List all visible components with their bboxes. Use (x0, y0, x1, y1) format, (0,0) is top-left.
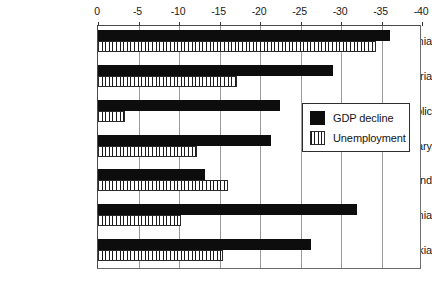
bar-unemployment (98, 215, 181, 226)
tick-mark (98, 22, 99, 26)
legend-swatch-unemployment (310, 131, 325, 145)
tick-label: -10 (171, 5, 186, 17)
tick-mark (382, 22, 383, 26)
bar-unemployment (98, 250, 223, 261)
bar-gdp-decline (98, 169, 205, 180)
bar-unemployment (98, 180, 228, 191)
bar-gdp-decline (98, 204, 357, 215)
tick-mark (179, 22, 180, 26)
bar-gdp-decline (98, 65, 333, 76)
legend-label-gdp-decline: GDP decline (333, 112, 393, 124)
tick-label: 0 (94, 5, 100, 17)
bar-gdp-decline (98, 100, 280, 111)
bar-gdp-decline (98, 239, 311, 250)
tick-label: -35 (373, 5, 388, 17)
legend-swatch-gdp-decline (310, 111, 325, 125)
tick-label: -5 (133, 5, 142, 17)
bar-unemployment (98, 111, 125, 122)
tick-label: -30 (333, 5, 348, 17)
tick-mark (260, 22, 261, 26)
tick-label: -40 (414, 5, 429, 17)
tick-mark (422, 22, 423, 26)
tick-label: -25 (292, 5, 307, 17)
bar-gdp-decline (98, 135, 271, 146)
legend: GDP decline Unemployment (302, 103, 410, 152)
legend-item-unemployment: Unemployment (310, 130, 406, 145)
tick-mark (301, 22, 302, 26)
tick-mark (341, 22, 342, 26)
legend-label-unemployment: Unemployment (333, 132, 406, 144)
bar-unemployment (98, 41, 376, 52)
bar-unemployment (98, 76, 237, 87)
tick-label: -15 (211, 5, 226, 17)
tick-mark (139, 22, 140, 26)
gridline (220, 26, 221, 268)
tick-label: -20 (252, 5, 267, 17)
bar-chart: 0-5-10-15-20-25-30-35-40 AlbaniaBulgaria… (0, 0, 432, 281)
tick-mark (220, 22, 221, 26)
legend-item-gdp-decline: GDP decline (310, 110, 393, 125)
bar-unemployment (98, 146, 197, 157)
gridline (260, 26, 261, 268)
bar-gdp-decline (98, 30, 390, 41)
